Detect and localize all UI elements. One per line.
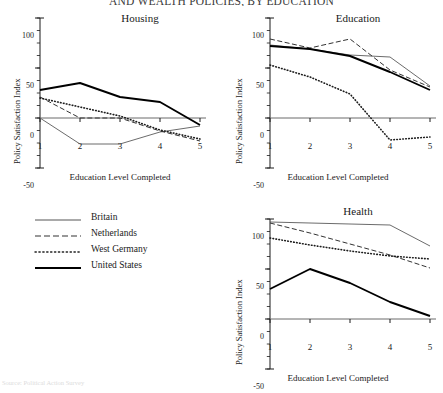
y-tick-label: 50 — [236, 81, 264, 90]
x-tick-label: 3 — [341, 141, 359, 151]
x-tick-label: 4 — [381, 342, 399, 352]
legend: Britain Netherlands West Germany United … — [34, 212, 204, 276]
legend-label-west-germany: West Germany — [91, 244, 147, 254]
legend-item-west-germany: West Germany — [34, 244, 204, 260]
chart-panel-education: Education Policy Satisfaction Index Educ… — [228, 12, 443, 192]
x-tick-label: 5 — [191, 141, 209, 151]
series-line-united-states — [270, 46, 430, 90]
x-tick-label: 1 — [31, 141, 49, 151]
figure-root: AND WEALTH POLICIES, BY EDUCATION Housin… — [0, 0, 443, 393]
x-tick-label: 3 — [111, 141, 129, 151]
x-tick-label: 3 — [341, 342, 359, 352]
x-tick-label: 1 — [261, 342, 279, 352]
x-tick-label: 4 — [151, 141, 169, 151]
y-tick-label: 100 — [6, 31, 34, 40]
x-axis-label-education: Education Level Completed — [248, 172, 428, 182]
y-tick-label: 50 — [236, 282, 264, 291]
chart-title-health: Health — [283, 205, 433, 217]
chart-panel-health: Health Policy Satisfaction Index Educati… — [228, 205, 443, 393]
x-tick-label: 5 — [421, 342, 439, 352]
y-tick-label: -50 — [236, 382, 264, 391]
legend-swatch-solid-thin — [34, 216, 82, 224]
x-tick-label: 4 — [381, 141, 399, 151]
y-tick-label: 100 — [236, 232, 264, 241]
series-line-united-states — [270, 269, 430, 316]
legend-label-britain: Britain — [91, 212, 117, 222]
legend-swatch-solid-thick — [34, 264, 82, 272]
y-tick-label: 0 — [6, 131, 34, 140]
y-tick-label: 0 — [236, 131, 264, 140]
x-tick-label: 2 — [71, 141, 89, 151]
x-tick-label: 5 — [421, 141, 439, 151]
y-axis-label-education: Policy Satisfaction Index — [234, 79, 244, 164]
x-axis-label-health: Education Level Completed — [248, 373, 428, 383]
x-tick-label: 2 — [301, 342, 319, 352]
chart-title-housing: Housing — [60, 12, 220, 24]
series-line-west-germany — [270, 238, 430, 259]
chart-panel-housing: Housing Policy Satisfaction Index Educat… — [0, 12, 225, 192]
chart-title-education: Education — [283, 12, 433, 24]
series-line-netherlands — [270, 223, 430, 268]
legend-swatch-dashed — [34, 232, 82, 240]
figure-footnote: Source: Political Action Survey — [2, 379, 84, 386]
x-axis-label-housing: Education Level Completed — [30, 172, 210, 182]
legend-swatch-dotted — [34, 248, 82, 256]
y-tick-label: 0 — [236, 332, 264, 341]
x-tick-label: 2 — [301, 141, 319, 151]
y-tick-label: 100 — [236, 31, 264, 40]
series-line-west-germany — [270, 65, 430, 140]
y-tick-label: 50 — [6, 81, 34, 90]
y-tick-label: -50 — [6, 181, 34, 190]
legend-item-britain: Britain — [34, 212, 204, 228]
legend-item-united-states: United States — [34, 260, 204, 276]
figure-title: AND WEALTH POLICIES, BY EDUCATION — [0, 0, 443, 6]
legend-item-netherlands: Netherlands — [34, 228, 204, 244]
y-axis-label-health: Policy Satisfaction Index — [234, 280, 244, 365]
y-tick-label: -50 — [236, 181, 264, 190]
y-axis-label-housing: Policy Satisfaction Index — [12, 79, 22, 164]
x-tick-label: 1 — [261, 141, 279, 151]
legend-label-netherlands: Netherlands — [91, 228, 137, 238]
legend-label-united-states: United States — [91, 260, 142, 270]
